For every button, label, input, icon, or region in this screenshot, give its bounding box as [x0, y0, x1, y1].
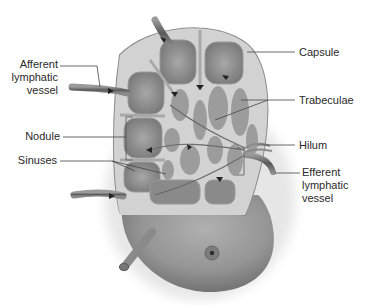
label-efferent-lymphatic-vessel: Efferent lymphatic vessel [302, 166, 348, 205]
nodule [124, 118, 162, 158]
afferent-lymphatic-vessel [72, 87, 127, 93]
lymph-node-diagram: Afferent lymphatic vessel Nodule Sinuses… [0, 0, 366, 305]
label-sinuses: Sinuses [4, 154, 57, 167]
nodule [160, 40, 196, 84]
nodule [128, 72, 164, 114]
nodule [150, 180, 200, 204]
label-capsule: Capsule [299, 46, 339, 59]
nodule [205, 180, 235, 204]
label-nodule: Nodule [10, 130, 60, 143]
nodule [205, 42, 243, 84]
label-hilum: Hilum [299, 139, 327, 152]
label-trabeculae: Trabeculae [299, 94, 354, 107]
afferent-lymphatic-vessel [74, 193, 123, 196]
label-afferent-lymphatic-vessel: Afferent lymphatic vessel [6, 58, 58, 97]
